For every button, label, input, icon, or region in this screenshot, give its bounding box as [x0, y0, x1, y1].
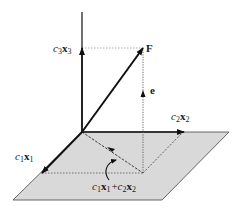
vector-decomposition-diagram: c3x3 F e c2x2 c1x1 c1x1+c2x2: [0, 0, 238, 209]
label-F: F: [146, 42, 153, 54]
label-c1x1: c1x1: [15, 150, 33, 164]
e-arrowhead-icon: [141, 90, 146, 97]
F-vector: [82, 48, 143, 132]
label-e: e: [150, 84, 155, 96]
label-c3x3: c3x3: [53, 42, 71, 56]
label-c2x2: c2x2: [171, 110, 189, 124]
